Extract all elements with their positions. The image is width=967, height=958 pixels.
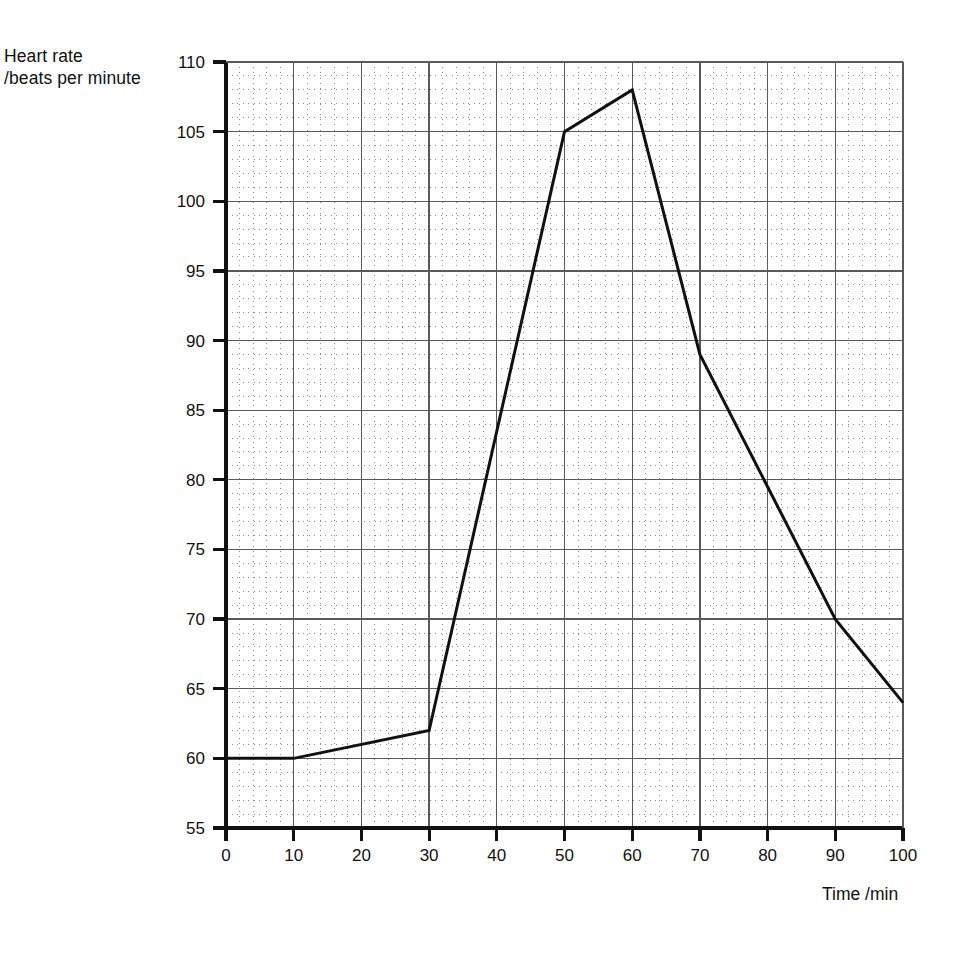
line-chart-plot: 556065707580859095100105110 010203040506… — [0, 0, 967, 958]
x-tick-label: 80 — [758, 846, 777, 865]
x-tick-label: 0 — [221, 846, 230, 865]
y-tick-label: 75 — [186, 540, 205, 559]
y-tick-label: 60 — [186, 749, 205, 768]
axis-ticks — [213, 62, 903, 841]
x-tick-label: 100 — [889, 846, 917, 865]
y-tick-label: 105 — [177, 123, 205, 142]
y-tick-label: 85 — [186, 401, 205, 420]
y-tick-label: 110 — [178, 53, 205, 72]
x-tick-label: 20 — [352, 846, 371, 865]
y-tick-label: 100 — [177, 192, 205, 211]
x-tick-label: 30 — [420, 846, 439, 865]
y-tick-label: 90 — [186, 332, 205, 351]
x-tick-label: 50 — [555, 846, 574, 865]
chart-figure: Heart rate /beats per minute 55606570758… — [0, 0, 967, 958]
major-gridlines — [226, 62, 903, 828]
y-tick-label: 95 — [186, 262, 205, 281]
x-tick-label: 60 — [623, 846, 642, 865]
y-tick-label: 55 — [186, 819, 205, 838]
x-tick-label: 40 — [487, 846, 506, 865]
x-tick-label: 70 — [690, 846, 709, 865]
y-tick-label: 65 — [186, 680, 205, 699]
x-tick-label: 90 — [826, 846, 845, 865]
x-tick-labels: 0102030405060708090100 — [221, 846, 917, 865]
y-tick-label: 80 — [186, 471, 205, 490]
y-tick-label: 70 — [186, 610, 205, 629]
x-tick-label: 10 — [284, 846, 303, 865]
x-axis-label: Time /min — [822, 884, 898, 905]
y-tick-labels: 556065707580859095100105110 — [177, 53, 205, 838]
